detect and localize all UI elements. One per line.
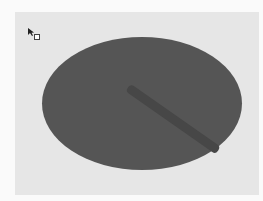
drawing-canvas[interactable] — [15, 12, 259, 195]
arrow-cursor-icon — [27, 26, 41, 40]
